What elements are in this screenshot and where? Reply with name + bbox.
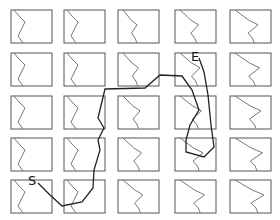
grid-cell [64, 180, 105, 213]
grid-cell [230, 10, 271, 43]
cell-curve [67, 180, 78, 213]
cell-curve [123, 10, 137, 43]
cell-curve [14, 10, 25, 43]
grid-cell [11, 53, 52, 86]
cell-curve [14, 96, 25, 129]
grid-cell [230, 138, 271, 171]
cell-curve [235, 96, 261, 129]
grid-cell [230, 53, 271, 86]
grid-cell [64, 53, 105, 86]
grid-cell [175, 180, 216, 213]
cell-curve [235, 53, 260, 86]
cell-curve [14, 53, 25, 86]
cell-curve [180, 138, 203, 171]
grid-cell [118, 10, 159, 43]
grid-cell [118, 138, 159, 171]
cell-curve [123, 138, 142, 171]
cell-grid [11, 10, 271, 213]
grid-cell [230, 180, 271, 213]
grid-cell [11, 96, 52, 129]
grid-cell [11, 10, 52, 43]
cell-curve [180, 180, 205, 213]
cell-curve [123, 96, 140, 129]
cell-curve [14, 138, 25, 171]
cell-curve [235, 138, 263, 171]
grid-cell [64, 10, 105, 43]
cell-curve [123, 180, 143, 213]
grid-cell [230, 96, 271, 129]
cell-curve [67, 53, 78, 86]
grid-path-diagram: S E [0, 0, 280, 220]
cell-curve [235, 10, 258, 43]
grid-cell [175, 10, 216, 43]
end-label: E [191, 49, 199, 64]
cell-curve [235, 180, 264, 213]
cell-curve [180, 10, 199, 43]
cell-curve [67, 96, 78, 129]
cell-curve [67, 10, 78, 43]
cell-curve [14, 180, 25, 213]
grid-cell [11, 138, 52, 171]
cell-curve [67, 138, 78, 171]
cell-curve [123, 53, 139, 86]
start-label: S [28, 173, 36, 188]
